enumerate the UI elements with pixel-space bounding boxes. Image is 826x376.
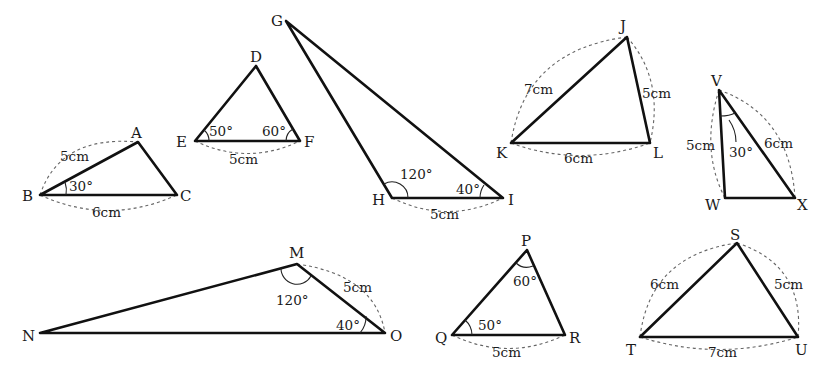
measure-angle-i: 40° bbox=[456, 181, 480, 197]
measure-angle-f: 60° bbox=[262, 123, 286, 139]
measure-angle-m: 120° bbox=[276, 292, 309, 308]
vertex-label-k: K bbox=[496, 144, 508, 162]
measure-side-ef: 5cm bbox=[229, 151, 258, 167]
vertex-label-g: G bbox=[271, 12, 283, 30]
triangle-figure: A B C 5cm 6cm 30° D E F 5cm 50° 60° G H … bbox=[0, 0, 826, 376]
vertex-label-b: B bbox=[22, 187, 33, 205]
measure-side-hi: 5cm bbox=[430, 206, 459, 222]
vertex-label-t: T bbox=[626, 341, 636, 359]
vertex-label-n: N bbox=[22, 327, 35, 345]
measure-side-ba: 5cm bbox=[60, 148, 89, 164]
vertex-label-l: L bbox=[653, 144, 663, 162]
measure-side-jl: 5cm bbox=[642, 85, 671, 101]
vertex-label-d: D bbox=[250, 48, 262, 66]
measure-side-ts: 6cm bbox=[650, 276, 679, 292]
measure-angle-h: 120° bbox=[400, 166, 433, 182]
measure-angle-o: 40° bbox=[336, 317, 360, 333]
measure-side-kl: 6cm bbox=[564, 150, 593, 166]
measure-angle-v: 30° bbox=[729, 144, 753, 160]
vertex-label-r: R bbox=[569, 329, 581, 347]
measure-side-bc: 6cm bbox=[92, 204, 121, 220]
measure-angle-p: 60° bbox=[513, 273, 537, 289]
vertex-label-s: S bbox=[730, 226, 740, 244]
measure-side-tu: 7cm bbox=[708, 344, 737, 360]
measure-side-kj: 7cm bbox=[524, 81, 553, 97]
vertex-label-i: I bbox=[508, 191, 514, 209]
vertex-label-w: W bbox=[705, 196, 721, 214]
measure-angle-q: 50° bbox=[478, 317, 502, 333]
vertex-label-e: E bbox=[176, 133, 187, 151]
vertex-label-q: Q bbox=[435, 329, 447, 347]
vertex-label-c: C bbox=[180, 187, 191, 205]
measure-side-su: 5cm bbox=[774, 276, 803, 292]
vertex-label-f: F bbox=[304, 133, 314, 151]
vertex-label-a: A bbox=[130, 124, 142, 142]
measure-side-qr: 5cm bbox=[492, 344, 521, 360]
measure-side-vw: 5cm bbox=[686, 137, 715, 153]
vertex-label-u: U bbox=[795, 341, 808, 359]
measure-side-vx: 6cm bbox=[764, 135, 793, 151]
vertex-label-x: X bbox=[797, 196, 808, 214]
measure-angle-b: 30° bbox=[69, 178, 93, 194]
vertex-label-h: H bbox=[372, 191, 385, 209]
measure-side-mo: 5cm bbox=[343, 279, 372, 295]
vertex-label-j: J bbox=[618, 17, 626, 35]
vertex-label-p: P bbox=[521, 232, 531, 250]
vertex-label-m: M bbox=[289, 244, 304, 262]
measure-angle-e: 50° bbox=[209, 123, 233, 139]
vertex-label-v: V bbox=[710, 72, 723, 90]
vertex-label-o: O bbox=[390, 327, 402, 345]
